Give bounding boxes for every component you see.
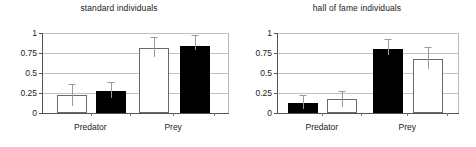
x-axis-tick-mark <box>322 113 323 116</box>
error-bar-cap <box>191 35 198 36</box>
bar-prey-filled <box>180 46 210 113</box>
y-axis-tick-label: 0.25 <box>238 88 272 98</box>
error-bar-cap <box>300 95 307 96</box>
y-axis-tick-mark <box>39 53 42 54</box>
y-axis-tick-mark <box>274 53 277 54</box>
y-axis-tick-label: 0 <box>238 108 272 118</box>
y-axis-tick-mark <box>274 73 277 74</box>
plot-area-hall-of-fame <box>277 33 459 114</box>
y-axis-tick-mark <box>274 113 277 114</box>
error-bar <box>195 35 196 49</box>
y-axis-tick-label: 0.5 <box>0 68 37 78</box>
error-bar-cap <box>425 47 432 48</box>
y-axis-tick-mark <box>39 93 42 94</box>
x-axis-tick-mark <box>214 113 215 116</box>
x-axis-category-label: Prey <box>399 122 416 132</box>
y-axis-tick-mark <box>274 93 277 94</box>
x-axis-tick-mark <box>407 113 408 116</box>
y-axis-tick-label: 1 <box>0 28 37 38</box>
y-axis-tick-label: 0.25 <box>0 88 37 98</box>
error-bar <box>154 37 155 57</box>
two-panel-bar-chart-figure: standard individuals 00.250.50.751 Preda… <box>0 0 476 147</box>
error-bar <box>111 82 112 98</box>
x-axis-category-label: Predator <box>74 122 107 132</box>
y-axis-tick-mark <box>39 33 42 34</box>
gridline <box>43 33 229 34</box>
plot-area-standard <box>42 33 229 114</box>
gridline <box>278 53 459 54</box>
x-axis-tick-mark <box>130 113 131 116</box>
x-axis-tick-mark <box>91 113 92 116</box>
error-bar <box>342 91 343 107</box>
error-bar-cap <box>107 82 114 83</box>
bar-prey-filled <box>373 49 403 113</box>
x-axis-tick-mark <box>447 113 448 116</box>
panel-hall-of-fame-individuals: hall of fame individuals 00.250.50.751 P… <box>238 0 476 147</box>
x-axis-category-label: Prey <box>164 122 181 132</box>
y-axis-tick-label: 0.75 <box>238 48 272 58</box>
y-axis-tick-label: 0 <box>0 108 37 118</box>
y-axis-tick-mark <box>274 33 277 34</box>
x-axis-category-label: Predator <box>305 122 338 132</box>
error-bar-cap <box>385 39 392 40</box>
error-bar-cap <box>68 84 75 85</box>
error-bar <box>428 47 429 69</box>
error-bar-cap <box>339 91 346 92</box>
error-bar <box>388 39 389 56</box>
y-axis-tick-mark <box>39 73 42 74</box>
bar-prey-open <box>139 48 169 113</box>
y-axis-tick-mark <box>39 113 42 114</box>
error-bar <box>303 95 304 109</box>
y-axis-tick-label: 0.75 <box>0 48 37 58</box>
x-axis-tick-mark <box>173 113 174 116</box>
error-bar <box>72 84 73 106</box>
panel-title-standard: standard individuals <box>0 3 238 13</box>
y-axis-tick-label: 1 <box>238 28 272 38</box>
y-axis-tick-label: 0.5 <box>238 68 272 78</box>
error-bar-cap <box>150 37 157 38</box>
x-axis-tick-mark <box>361 113 362 116</box>
panel-standard-individuals: standard individuals 00.250.50.751 Preda… <box>0 0 238 147</box>
panel-title-hall-of-fame: hall of fame individuals <box>238 3 476 13</box>
gridline <box>278 33 459 34</box>
